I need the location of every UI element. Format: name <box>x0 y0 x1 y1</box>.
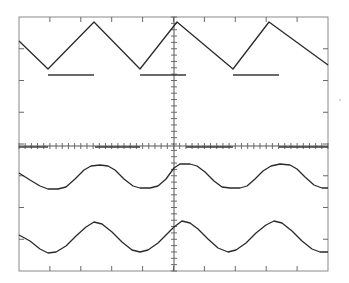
speck-mark <box>339 99 341 101</box>
graticule <box>19 17 328 271</box>
oscilloscope-display <box>0 0 349 283</box>
